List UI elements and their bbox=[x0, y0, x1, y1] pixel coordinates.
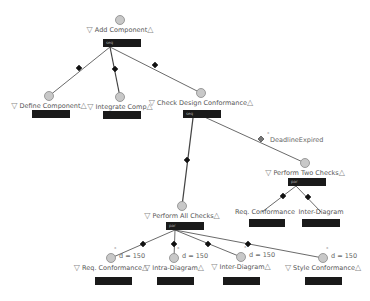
node-label-text: Inter-Diagram bbox=[298, 208, 343, 216]
duration-annotation: d = 150 bbox=[119, 252, 145, 260]
gateway-diamond-icon bbox=[205, 241, 211, 247]
node-label-text: Style Conformance bbox=[291, 264, 355, 272]
node-property-bar[interactable] bbox=[95, 277, 132, 285]
expand-triangle-icon[interactable]: △ bbox=[214, 211, 220, 220]
node-property-bar[interactable]: par bbox=[288, 178, 326, 186]
node-circle-icon[interactable] bbox=[178, 202, 187, 211]
node-circle-icon[interactable] bbox=[107, 254, 116, 263]
gateway-diamond-icon bbox=[112, 66, 118, 72]
expand-triangle-icon[interactable]: △ bbox=[81, 101, 87, 110]
node-label-check: ▽ Check Design Conformance△ bbox=[149, 99, 253, 107]
annotation-marker-icon: ° bbox=[114, 246, 117, 252]
node-property-bar[interactable] bbox=[305, 277, 342, 285]
node-label-two: ▽ Perform Two Checks△ bbox=[265, 169, 345, 177]
node-property-bar[interactable] bbox=[32, 110, 70, 118]
expand-triangle-icon[interactable]: △ bbox=[247, 98, 253, 107]
node-label-text: Integrate Comp bbox=[93, 103, 146, 111]
expand-triangle-icon[interactable]: △ bbox=[339, 168, 345, 177]
duration-annotation: d = 150 bbox=[249, 251, 275, 259]
node-label-text: Req. Conformance bbox=[80, 264, 142, 272]
annotation-marker-icon: ° bbox=[177, 246, 180, 252]
node-label-all: ▽ Perform All Checks△ bbox=[144, 212, 219, 220]
annotation-marker-icon: ° bbox=[326, 246, 329, 252]
gateway-diamond-icon bbox=[140, 241, 146, 247]
node-label-add: ▽ Add Component△ bbox=[87, 26, 154, 34]
annotation-marker-icon: ° bbox=[267, 131, 270, 137]
node-property-bar[interactable] bbox=[249, 219, 285, 227]
node-label-text: Check Design Conformance bbox=[155, 99, 247, 107]
node-property-bar[interactable] bbox=[302, 219, 340, 227]
expand-triangle-icon[interactable]: △ bbox=[265, 262, 271, 271]
edge-line bbox=[49, 47, 110, 96]
expand-triangle-icon[interactable]: △ bbox=[198, 263, 204, 272]
node-label-text: Inter-Diagram bbox=[217, 263, 264, 271]
node-property-bar[interactable] bbox=[157, 277, 194, 285]
node-property-bar[interactable]: seq bbox=[183, 110, 221, 118]
node-label-req: ▽ Req. Conformance△ bbox=[74, 264, 148, 272]
node-label-text: Perform All Checks bbox=[150, 212, 213, 220]
node-label-inter2: Inter-Diagram bbox=[298, 208, 343, 216]
edge-line bbox=[110, 47, 201, 93]
node-property-bar[interactable] bbox=[223, 277, 260, 285]
node-circle-icon[interactable] bbox=[116, 16, 125, 25]
gateway-diamond-icon bbox=[184, 157, 190, 163]
node-label-text: Add Component bbox=[93, 26, 147, 34]
gateway-diamond-icon bbox=[258, 136, 264, 142]
duration-annotation: d = 150 bbox=[331, 252, 357, 260]
node-circle-icon[interactable] bbox=[301, 159, 310, 168]
bar-mode-text: seq bbox=[186, 111, 193, 116]
bar-mode-text: seq bbox=[106, 40, 113, 45]
node-label-style: ▽ Style Conformance△ bbox=[285, 264, 361, 272]
node-circle-icon[interactable] bbox=[237, 253, 246, 262]
node-label-text: Define Component bbox=[17, 102, 80, 110]
node-label-req2: Req. Conformance bbox=[235, 208, 295, 216]
node-label-intra: ▽ Intra-Diagram△ bbox=[144, 264, 204, 272]
node-circle-icon[interactable] bbox=[116, 93, 125, 102]
node-circle-icon[interactable] bbox=[197, 89, 206, 98]
node-property-bar[interactable]: par bbox=[166, 222, 204, 230]
bar-mode-text: par bbox=[291, 179, 298, 184]
bar-mode-text: par bbox=[169, 223, 176, 228]
node-label-text: Perform Two Checks bbox=[271, 169, 338, 177]
annotation-marker-icon: ° bbox=[244, 245, 247, 251]
gateway-diamond-icon bbox=[305, 194, 311, 200]
node-label-integrate: ▽ Integrate Comp△ bbox=[87, 103, 152, 111]
expand-triangle-icon[interactable]: △ bbox=[355, 263, 361, 272]
node-circle-icon[interactable] bbox=[45, 92, 54, 101]
edge-label-deadline-expired: DeadlineExpired bbox=[270, 136, 323, 144]
duration-annotation: d = 150 bbox=[182, 252, 208, 260]
expand-triangle-icon[interactable]: △ bbox=[147, 25, 153, 34]
node-label-inter: ▽ Inter-Diagram△ bbox=[211, 263, 270, 271]
node-label-text: Intra-Diagram bbox=[150, 264, 198, 272]
node-label-define: ▽ Define Component△ bbox=[11, 102, 86, 110]
node-circle-icon[interactable] bbox=[170, 254, 179, 263]
node-circle-icon[interactable] bbox=[319, 254, 328, 263]
node-property-bar[interactable]: seq bbox=[103, 39, 141, 47]
node-label-text: Req. Conformance bbox=[235, 208, 295, 216]
node-property-bar[interactable] bbox=[103, 111, 141, 119]
gateway-diamond-icon bbox=[152, 62, 158, 68]
